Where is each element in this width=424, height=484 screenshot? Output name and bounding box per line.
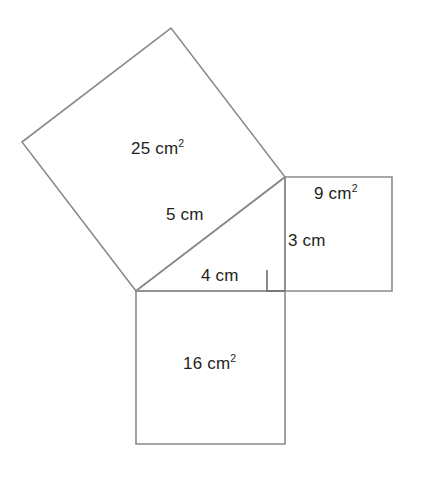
figure-canvas <box>0 0 424 484</box>
label-area-hypotenuse: 25 cm2 <box>131 140 184 157</box>
pythagorean-figure: 25 cm2 9 cm2 16 cm2 5 cm 3 cm 4 cm <box>0 0 424 484</box>
label-area-hypotenuse-unit: cm <box>155 139 178 158</box>
label-area-base-value: 16 <box>183 354 202 373</box>
label-side-base: 4 cm <box>201 267 239 284</box>
square-on-hypotenuse <box>22 28 285 291</box>
label-area-vertical-unit: cm <box>329 184 352 203</box>
label-area-vertical-exponent: 2 <box>352 182 358 194</box>
right-angle-marker-icon <box>267 270 285 291</box>
label-area-hypotenuse-value: 25 <box>131 139 150 158</box>
label-area-vertical-value: 9 <box>314 184 324 203</box>
label-area-base: 16 cm2 <box>183 355 236 372</box>
label-area-vertical: 9 cm2 <box>314 185 358 202</box>
label-area-hypotenuse-exponent: 2 <box>178 137 184 149</box>
label-area-base-exponent: 2 <box>230 352 236 364</box>
label-side-hypotenuse: 5 cm <box>166 206 204 223</box>
label-side-vertical: 3 cm <box>288 232 326 249</box>
label-area-base-unit: cm <box>207 354 230 373</box>
